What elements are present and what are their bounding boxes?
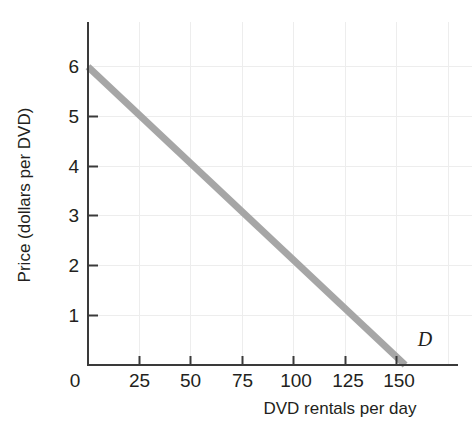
- y-axis-title: Price (dollars per DVD): [15, 108, 34, 283]
- demand-curve-chart: 6 5 4 3 2 1 0 25 50 75 100 125 150 D DVD…: [0, 0, 472, 439]
- gridlines: [88, 22, 472, 365]
- y-tick-label-4: 4: [68, 156, 79, 177]
- y-tick-label-6: 6: [68, 56, 79, 77]
- x-tick-label-0: 0: [70, 370, 81, 391]
- y-tick-label-1: 1: [68, 305, 79, 326]
- axes: [87, 22, 458, 366]
- x-axis-title: DVD rentals per day: [263, 399, 417, 418]
- x-tick-label-25: 25: [129, 370, 150, 391]
- x-tick-label-125: 125: [332, 370, 364, 391]
- demand-curve-label: D: [417, 328, 433, 350]
- y-tick-label-2: 2: [68, 255, 79, 276]
- x-tick-label-150: 150: [383, 370, 415, 391]
- y-axis-ticks: [88, 117, 98, 316]
- x-tick-label-100: 100: [280, 370, 312, 391]
- chart-canvas: 6 5 4 3 2 1 0 25 50 75 100 125 150 D DVD…: [0, 0, 472, 439]
- y-tick-label-5: 5: [68, 106, 79, 127]
- x-axis-ticks: [140, 356, 397, 365]
- y-tick-label-3: 3: [68, 205, 79, 226]
- x-tick-label-50: 50: [180, 370, 201, 391]
- x-tick-label-75: 75: [232, 370, 253, 391]
